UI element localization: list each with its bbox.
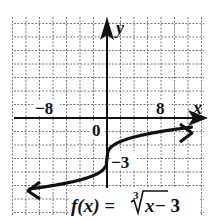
x-tick-label-neg8: −8: [35, 99, 53, 118]
y-axis-label: y: [114, 18, 125, 38]
x-axis-label: x: [192, 98, 202, 118]
left-arrow-icon: [28, 182, 40, 199]
function-suffix: − 3: [155, 195, 180, 216]
function-prefix: f(x) =: [71, 195, 115, 217]
function-radicand: x: [144, 195, 155, 216]
graph: −8 8 x y 0 −3 f(x) = 3 x − 3: [0, 0, 220, 220]
y-tick-label-neg3: −3: [111, 153, 129, 172]
origin-label: 0: [92, 121, 101, 140]
x-tick-label-8: 8: [156, 99, 165, 118]
